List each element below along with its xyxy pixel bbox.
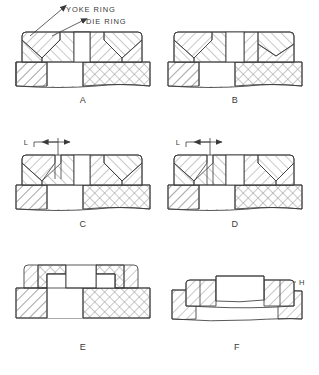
figure-b-ring-block bbox=[174, 32, 294, 62]
figure-a-base-plate bbox=[16, 62, 150, 88]
figure-b-caption: B bbox=[232, 95, 239, 105]
figure-b-base-plate bbox=[168, 62, 302, 88]
figure-c-base-plate bbox=[16, 185, 150, 211]
yoke-ring-label: YOKE RING bbox=[66, 5, 116, 14]
figure-f-body bbox=[172, 276, 302, 321]
figure-c-callout-label: L bbox=[24, 138, 28, 147]
figure-d-base-plate bbox=[168, 185, 302, 211]
figure-f-callout-label: H bbox=[299, 278, 304, 287]
figure-f-caption: F bbox=[234, 342, 240, 352]
figure-d-callout-label: L bbox=[176, 138, 180, 147]
figure-e-caption: E bbox=[80, 342, 87, 352]
die-ring-label: DIE RING bbox=[86, 17, 127, 26]
figure-e-ring-block bbox=[24, 265, 138, 288]
engineering-drawing-sheet: A YOKE RING DIE RING B bbox=[0, 0, 319, 375]
figure-d-ring-block bbox=[174, 155, 294, 185]
figure-a-caption: A bbox=[80, 95, 87, 105]
figure-a-ring-block bbox=[22, 32, 142, 62]
figure-d-caption: D bbox=[232, 219, 239, 229]
figure-c-ring-block bbox=[22, 155, 142, 185]
figure-c-caption: C bbox=[80, 219, 87, 229]
figure-e-base-plate bbox=[16, 288, 150, 318]
